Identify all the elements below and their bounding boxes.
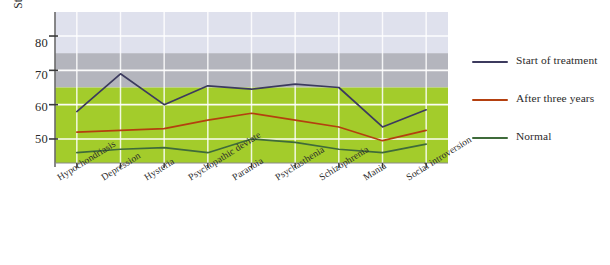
- chart-figure: Standard (T) score 80 70 60 50 Hypochond…: [0, 0, 610, 265]
- legend-swatch-2: [472, 137, 508, 139]
- legend-label-1: After three years: [516, 92, 594, 104]
- legend-label-0: Start of treatment: [516, 54, 598, 66]
- legend-swatch-0: [472, 61, 508, 63]
- legend-label-2: Normal: [516, 130, 551, 142]
- legend-swatch-1: [472, 99, 508, 101]
